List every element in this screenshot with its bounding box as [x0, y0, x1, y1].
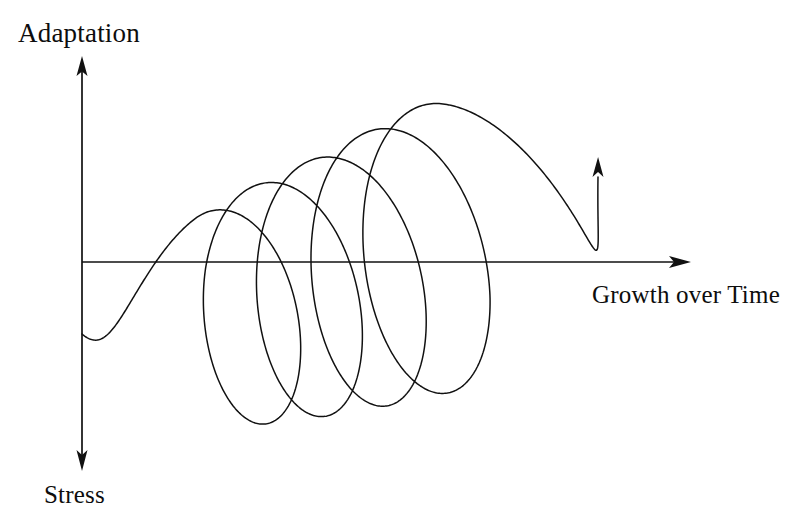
spiral-growth-diagram — [0, 0, 812, 526]
axis-label-growth-over-time: Growth over Time — [592, 281, 780, 309]
spiral-arrow-head — [593, 157, 604, 177]
axis-label-stress: Stress — [44, 481, 105, 509]
spiral-icon — [82, 104, 604, 425]
axis-label-adaptation: Adaptation — [18, 18, 140, 49]
diagram-canvas: Adaptation Growth over Time Stress — [0, 0, 812, 526]
